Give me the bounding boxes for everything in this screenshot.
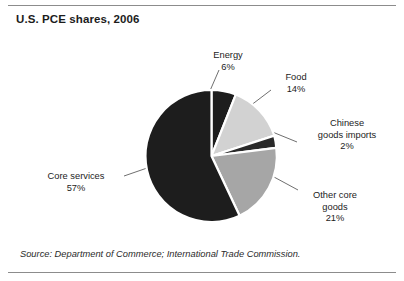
pie-label-core-services-value: 57% [30,183,122,195]
leader-line-other-core [274,177,298,190]
pie-label-chinese-line1: Chinese [300,118,394,130]
pie-slices [145,90,276,222]
pie-label-chinese-value: 2% [300,141,394,153]
bottom-divider [8,272,396,273]
pie-label-other-core-line1: Other core [300,190,370,202]
pie-label-food: Food 14% [270,72,322,95]
pie-label-other-core-goods: Other core goods 21% [300,190,370,225]
pie-label-food-value: 14% [270,84,322,96]
pie-label-core-services: Core services 57% [30,171,122,194]
pie-label-chinese-line2: goods imports [300,130,394,142]
pie-label-food-name: Food [270,72,322,84]
pie-label-chinese-goods-imports: Chinese goods imports 2% [300,118,394,153]
pie-label-energy-name: Energy [196,50,260,62]
pie-label-other-core-value: 21% [300,213,370,225]
pie-label-core-services-name: Core services [30,171,122,183]
pie-label-energy: Energy 6% [196,50,260,73]
source-note: Source: Department of Commerce; Internat… [20,249,300,259]
figure-container: U.S. PCE shares, 2006 [0,0,404,281]
pie-label-energy-value: 6% [196,62,260,74]
pie-label-other-core-line2: goods [300,202,370,214]
